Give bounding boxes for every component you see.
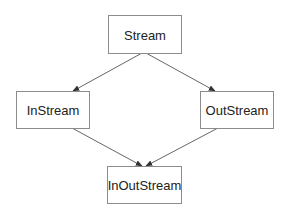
edge-outstream-to-inoutstream	[146, 128, 218, 166]
node-outstream: OutStream	[201, 92, 274, 129]
node-label-outstream: OutStream	[206, 103, 269, 118]
stream-inheritance-diagram: Stream InStream OutStream InOutStream	[0, 0, 291, 215]
edges	[72, 53, 218, 166]
node-label-stream: Stream	[124, 28, 166, 43]
edge-stream-to-outstream	[146, 53, 215, 91]
edge-instream-to-inoutstream	[72, 128, 142, 166]
node-stream: Stream	[109, 16, 182, 54]
node-instream: InStream	[17, 92, 90, 129]
node-label-inoutstream: InOutStream	[108, 178, 182, 193]
node-label-instream: InStream	[27, 103, 80, 118]
edge-stream-to-instream	[73, 53, 142, 91]
node-inoutstream: InOutStream	[108, 167, 182, 204]
